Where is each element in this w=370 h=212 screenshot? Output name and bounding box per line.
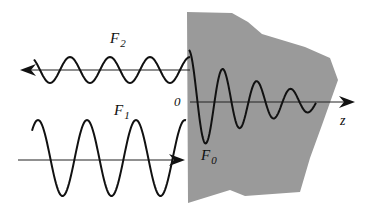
label-f0-main: F — [200, 147, 211, 163]
label-f1: F1 — [113, 102, 130, 121]
incident-wave-group — [18, 120, 186, 196]
label-f2-subscript: 2 — [120, 37, 126, 49]
origin-label: 0 — [174, 94, 181, 109]
label-f0-subscript: 0 — [211, 154, 217, 166]
reflected-wave-group — [20, 57, 190, 83]
label-f1-main: F — [113, 102, 124, 118]
label-f2-main: F — [109, 30, 120, 46]
label-f1-subscript: 1 — [124, 109, 130, 121]
z-axis-label: z — [339, 113, 346, 128]
absorbing-medium-region — [187, 12, 338, 203]
label-f2: F2 — [109, 30, 126, 49]
incident-wave-curve — [32, 120, 186, 196]
wave-diagram: F2 F1 F0 0 z — [0, 0, 370, 212]
